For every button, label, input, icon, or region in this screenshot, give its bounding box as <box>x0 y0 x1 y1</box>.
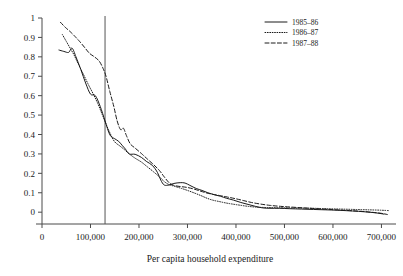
legend-label-1987-88: 1987–88 <box>292 39 319 48</box>
y-tick-label: 0.4 <box>24 130 36 140</box>
series-line-1987-88 <box>60 22 387 214</box>
y-tick-label: 0.9 <box>24 33 36 43</box>
x-tick-label: 300,000 <box>173 232 203 242</box>
y-tick-label: 0 <box>31 207 36 217</box>
y-tick-label: 0.3 <box>24 149 36 159</box>
y-tick-label: 0.8 <box>24 52 36 62</box>
y-tick-label: 1 <box>31 13 36 23</box>
y-tick-label: 0.2 <box>24 169 35 179</box>
y-tick-label: 0.1 <box>24 188 35 198</box>
y-tick-label: 0.6 <box>24 91 36 101</box>
x-axis-group: 0100,000200,000300,000400,000500,000600,… <box>36 224 397 242</box>
chart-container: 00.10.20.30.40.50.60.70.80.91 0100,00020… <box>0 0 403 276</box>
x-tick-label: 200,000 <box>124 232 154 242</box>
x-tick-label: 100,000 <box>76 232 106 242</box>
legend-group: 1985–861986–871987–88 <box>265 18 319 48</box>
x-tick-label: 700,000 <box>367 232 397 242</box>
y-axis-group: 00.10.20.30.40.50.60.70.80.91 <box>24 13 42 224</box>
legend-label-1986-87: 1986–87 <box>292 28 319 37</box>
series-line-1986-87 <box>62 35 388 211</box>
x-tick-label: 600,000 <box>318 232 348 242</box>
y-tick-label: 0.7 <box>24 71 36 81</box>
series-line-1985-86 <box>59 48 384 214</box>
x-tick-label: 500,000 <box>270 232 300 242</box>
x-tick-label: 400,000 <box>221 232 251 242</box>
legend-label-1985-86: 1985–86 <box>292 18 319 27</box>
line-chart: 00.10.20.30.40.50.60.70.80.91 0100,00020… <box>0 0 403 276</box>
x-tick-label: 0 <box>40 232 45 242</box>
x-axis-title: Per capita household expenditure <box>147 254 273 264</box>
series-group <box>59 22 389 214</box>
y-tick-label: 0.5 <box>24 110 36 120</box>
